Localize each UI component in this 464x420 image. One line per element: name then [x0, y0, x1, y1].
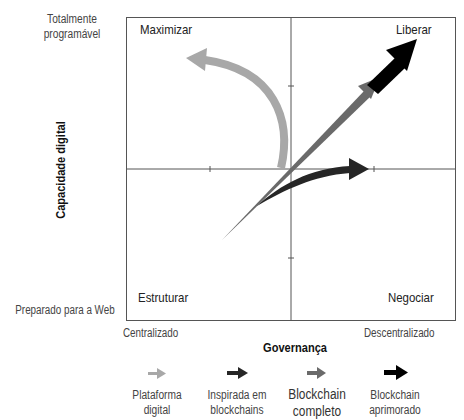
legend-item-blockchain-completo: Blockchain completo	[272, 382, 362, 420]
legend-label-line: Plataforma	[119, 388, 196, 403]
legend-item-inspirada-em-blockchains: Inspirada em blockchains	[192, 384, 282, 418]
y-axis-top-label-line1: Totalmente	[30, 12, 115, 27]
legend-item-plataforma-digital: Plataforma digital	[112, 384, 202, 418]
legend-label-line: digital	[119, 403, 196, 418]
legend-label: Blockchain aprimorado	[357, 388, 434, 418]
quadrant-label-estruturar: Estruturar	[138, 290, 188, 305]
legend-label-line: Blockchain	[279, 386, 356, 403]
y-axis-top-label: Totalmente programável	[30, 12, 115, 42]
x-axis-title: Governança	[248, 340, 342, 355]
arrow-blockchain-aprimorado	[358, 39, 417, 101]
quadrant-label-maximizar: Maximizar	[140, 22, 192, 37]
legend-label: Plataforma digital	[119, 388, 196, 418]
legend-arrow-blockchain-completo	[307, 367, 326, 379]
legend-label-line: completo	[279, 403, 356, 420]
legend-label: Inspirada em blockchains	[199, 388, 276, 418]
y-axis-title: Capacidade digital	[53, 121, 68, 219]
y-axis-bottom-label: Preparado para a Web	[12, 303, 119, 317]
legend-label-line: Blockchain	[357, 388, 434, 403]
legend-label-line: aprimorado	[357, 403, 434, 418]
legend-arrow-inspirada-em-blockchains	[227, 367, 248, 379]
quadrant-label-negociar: Negociar	[388, 290, 434, 305]
x-axis-right-label: Descentralizado	[364, 326, 435, 340]
arrow-inspirada-em-blockchains	[257, 158, 369, 206]
legend-label-line: Inspirada em	[199, 388, 276, 403]
quadrant-label-liberar: Liberar	[396, 22, 432, 37]
legend-label: Blockchain completo	[279, 386, 356, 420]
y-axis-top-label-line2: programável	[30, 27, 115, 42]
legend-arrow-blockchain-aprimorado	[384, 365, 408, 380]
x-axis-left-label: Centralizado	[123, 326, 178, 340]
legend-label-line: blockchains	[199, 403, 276, 418]
arrow-plataforma-digital	[186, 48, 284, 168]
legend-item-blockchain-aprimorado: Blockchain aprimorado	[350, 384, 440, 418]
arrow-blockchain-completo	[222, 77, 380, 240]
legend-arrow-plataforma-digital	[148, 368, 166, 379]
